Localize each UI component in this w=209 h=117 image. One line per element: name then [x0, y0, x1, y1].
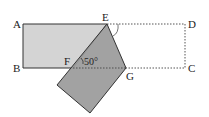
label-C: C — [188, 62, 195, 74]
diagram-svg: A B C D E F G 50° — [0, 0, 209, 117]
angle-arc-E — [113, 24, 118, 36]
label-D: D — [188, 18, 196, 30]
label-F: F — [64, 55, 70, 67]
label-B: B — [13, 62, 20, 74]
label-G: G — [126, 70, 134, 82]
label-E: E — [102, 11, 109, 23]
folded-rectangle-diagram: A B C D E F G 50° — [0, 0, 209, 117]
label-A: A — [13, 18, 21, 30]
angle-label-50: 50° — [84, 56, 98, 67]
